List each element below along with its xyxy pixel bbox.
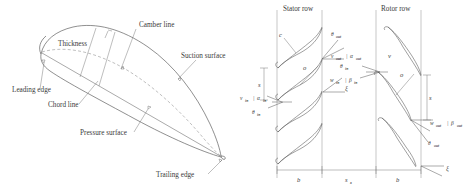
svg-text:s: s bbox=[345, 176, 348, 183]
thickness-measure-left bbox=[80, 28, 96, 77]
axial-gap-dimension bbox=[322, 166, 376, 174]
stator-blade-3 bbox=[276, 91, 322, 132]
stator-inlet-metal-label: θ in bbox=[252, 109, 260, 117]
stator-blade-2 bbox=[276, 27, 322, 68]
svg-text:w: w bbox=[330, 77, 334, 83]
svg-text:in: in bbox=[257, 112, 260, 117]
axial-gap-symbol: s x bbox=[345, 176, 352, 185]
svg-text:v: v bbox=[331, 53, 334, 59]
rotor-row-title: Rotor row bbox=[381, 5, 411, 13]
stator-inlet-velocity-label: v in | α in bbox=[240, 95, 266, 103]
rotor-pitch-symbol: s bbox=[429, 94, 432, 101]
svg-text:θ: θ bbox=[252, 109, 255, 115]
stator-inlet-vectors bbox=[267, 96, 292, 108]
svg-text:out: out bbox=[356, 56, 362, 61]
svg-text:|: | bbox=[345, 77, 346, 83]
cascade-panel: Stator row Rotor row c o v o s s b s x b… bbox=[240, 5, 463, 185]
svg-text:out: out bbox=[436, 123, 442, 128]
pressure-surface-label: Pressure surface bbox=[80, 129, 127, 137]
stator-chord-leader bbox=[284, 38, 296, 53]
rotor-stagger-marker bbox=[421, 166, 444, 176]
svg-text:in: in bbox=[345, 66, 348, 71]
stator-axial-chord-symbol: b bbox=[297, 176, 301, 183]
rotor-blade-2 bbox=[374, 72, 411, 121]
stator-blade-1 bbox=[276, 59, 322, 100]
thickness-leader bbox=[105, 31, 108, 38]
svg-text:θ: θ bbox=[428, 140, 431, 146]
stator-pitch-symbol: s bbox=[258, 81, 261, 88]
stator-stagger-symbol: ξ bbox=[345, 84, 348, 92]
camber-line-label: Camber line bbox=[139, 21, 174, 29]
svg-text:out: out bbox=[457, 123, 463, 128]
svg-text:in: in bbox=[263, 98, 266, 103]
leading-edge-arc bbox=[40, 36, 46, 54]
stator-outlet-metal-label: θ out bbox=[331, 31, 342, 39]
pressure-arrowhead bbox=[148, 106, 151, 109]
rotor-stagger-symbol: ξ bbox=[446, 164, 449, 172]
stator-axial-chord-dimension bbox=[277, 166, 322, 174]
svg-text:β: β bbox=[450, 120, 454, 126]
trailing-arrowhead bbox=[219, 159, 222, 162]
stator-pitch-dimension bbox=[260, 68, 268, 100]
stator-outlet-velocity-label: v out | α out bbox=[331, 53, 362, 61]
suction-leader bbox=[178, 60, 196, 79]
rotor-axial-chord-dimension bbox=[376, 166, 421, 174]
svg-text:out: out bbox=[336, 56, 342, 61]
svg-text:|: | bbox=[346, 53, 347, 59]
airfoil-panel: Thickness Camber line Suction surface Le… bbox=[12, 21, 226, 179]
stator-chord-symbol: c bbox=[279, 31, 282, 38]
rotor-chord-symbol: v bbox=[388, 52, 391, 59]
svg-text:w: w bbox=[430, 120, 434, 126]
svg-text:out: out bbox=[336, 34, 342, 39]
rotor-outlet-metal-label: θ out bbox=[428, 140, 440, 148]
chord-line-label: Chord line bbox=[48, 101, 79, 109]
trailing-edge-label: Trailing edge bbox=[156, 171, 194, 179]
camber-leader bbox=[121, 29, 136, 69]
stator-throat-symbol: o bbox=[303, 64, 307, 71]
svg-text:in: in bbox=[354, 80, 357, 85]
svg-text:in: in bbox=[245, 98, 248, 103]
leading-edge-label: Leading edge bbox=[12, 86, 51, 94]
svg-text:θ: θ bbox=[340, 63, 343, 69]
svg-text:α: α bbox=[350, 53, 353, 59]
svg-text:v: v bbox=[240, 95, 243, 101]
svg-text:|: | bbox=[253, 95, 254, 101]
stator-row-title: Stator row bbox=[283, 5, 314, 13]
rotor-throat-symbol: o bbox=[400, 71, 404, 78]
svg-text:θ: θ bbox=[331, 31, 334, 37]
pressure-leader bbox=[134, 109, 148, 132]
stator-blade-4 bbox=[276, 123, 322, 164]
thickness-tick-top bbox=[108, 30, 112, 31]
chord-leader bbox=[79, 81, 98, 104]
rotor-inlet-vectors bbox=[360, 66, 388, 78]
svg-text:in: in bbox=[336, 80, 339, 85]
rotor-throat-line bbox=[396, 74, 414, 95]
stator-stagger-marker bbox=[323, 78, 345, 92]
svg-text:β: β bbox=[348, 77, 352, 83]
thickness-measure-right bbox=[99, 32, 115, 86]
svg-text:x: x bbox=[349, 180, 352, 185]
turbomachinery-blade-figure: Thickness Camber line Suction surface Le… bbox=[0, 0, 472, 191]
svg-text:|: | bbox=[447, 120, 448, 126]
svg-text:out: out bbox=[434, 143, 440, 148]
rotor-blade-3 bbox=[378, 118, 416, 167]
suction-surface-label: Suction surface bbox=[181, 52, 226, 60]
rotor-outlet-velocity-label: w out | β out bbox=[430, 120, 463, 128]
rotor-inlet-metal-label: θ in bbox=[340, 63, 348, 71]
rotor-axial-chord-symbol: b bbox=[396, 176, 400, 183]
svg-text:α: α bbox=[257, 95, 260, 101]
thickness-label: Thickness bbox=[58, 40, 87, 48]
